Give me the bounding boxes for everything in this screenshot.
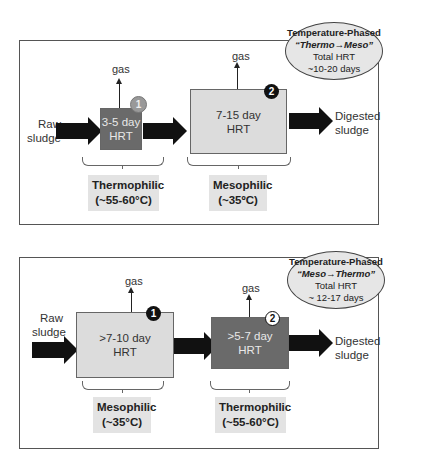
gas-line	[119, 82, 120, 108]
raw-sludge-label: Raw sludge	[32, 311, 66, 339]
gas-line	[237, 66, 238, 89]
thermophilic-label-box: Thermophilic (~55-60°C)	[88, 175, 159, 211]
brace	[210, 381, 290, 390]
brace	[82, 381, 164, 390]
brace	[187, 157, 291, 166]
stage-number-badge: 2	[265, 311, 280, 326]
outflow-arrow	[289, 109, 333, 133]
brace-tip	[238, 165, 239, 169]
inflow-arrow	[56, 119, 102, 143]
brace-tip	[122, 165, 123, 169]
gas-arrow-icon	[116, 78, 122, 84]
gas-label: gas	[125, 275, 143, 287]
cut-off-heading	[20, 0, 340, 4]
inflow-arrow	[32, 338, 78, 362]
stage-number-badge: 2	[264, 84, 279, 99]
brace	[82, 157, 164, 166]
gas-arrow-icon	[234, 62, 240, 68]
mesophilic-label-box: Mesophilic (~35°C)	[93, 397, 151, 433]
outflow-arrow	[289, 331, 333, 355]
gas-label: gas	[232, 50, 250, 62]
digested-sludge-label: Digested sludge	[335, 109, 380, 137]
thermophilic-label-box: Thermophilic (~55-60°C)	[215, 397, 286, 433]
reactor-thermophilic: 3-5 day HRT	[100, 108, 142, 150]
brace-tip	[249, 389, 250, 393]
reactor-thermophilic: >5-7 day HRT	[211, 317, 289, 369]
gas-arrow-icon	[246, 294, 252, 300]
mesophilic-label-box: Mesophilic (~35ºC)	[209, 175, 267, 211]
gas-label: gas	[242, 282, 260, 294]
gas-label: gas	[112, 63, 130, 75]
gas-line	[131, 291, 132, 312]
stage-number-badge: 1	[130, 96, 147, 113]
summary-ellipse: Temperature-Phased “Meso→Thermo” Total H…	[287, 251, 385, 309]
digested-sludge-label: Digested sludge	[335, 334, 380, 362]
transfer-arrow	[143, 119, 187, 143]
reactor-mesophilic: >7-10 day HRT	[76, 312, 174, 378]
summary-ellipse: Temperature-Phased “Thermo→Meso” Total H…	[285, 22, 383, 80]
gas-arrow-icon	[128, 287, 134, 293]
stage-number-badge: 1	[146, 306, 161, 321]
gas-line	[249, 298, 250, 317]
brace-tip	[122, 389, 123, 393]
